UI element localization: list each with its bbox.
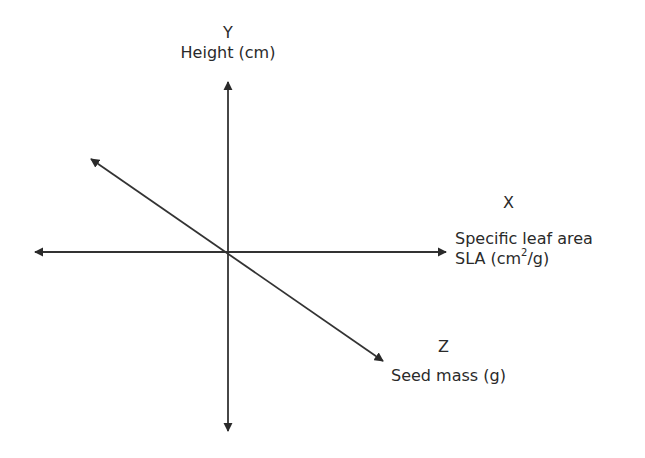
x-axis-label-line2: SLA (cm2/g) — [455, 249, 549, 269]
x-axis-label-superscript: 2 — [521, 247, 527, 258]
x-axis-label-prefix: SLA (cm — [455, 249, 521, 268]
z-axis-label: Seed mass (g) — [391, 366, 506, 386]
x-axis-letter: X — [503, 193, 514, 213]
x-axis-label-line1: Specific leaf area — [455, 229, 593, 249]
y-axis-label: Height (cm) — [158, 43, 298, 63]
z-axis-letter: Z — [438, 337, 449, 357]
y-axis-letter: Y — [218, 23, 238, 43]
x-axis-label-suffix: /g) — [527, 249, 549, 268]
z-axis-line — [91, 159, 383, 361]
